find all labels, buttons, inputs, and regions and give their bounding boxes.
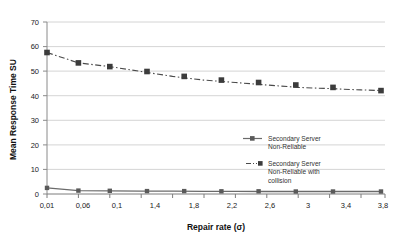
legend-label-line2: Non-Reliable with [268,168,320,175]
y-tick-label: 30 [31,116,39,125]
legend-label-line3: collision [268,177,292,184]
legend-marker-square-icon [258,161,263,166]
y-axis-tick-labels: 70 60 50 40 30 20 10 0 [31,18,39,199]
x-tick-label: 0,06 [76,201,91,210]
x-tick-label: 1,8 [189,201,199,210]
mean-response-time-line-chart: 70 60 50 40 30 20 10 0 0,01 0, [0,0,399,251]
x-tick-label: 3,8 [378,201,388,210]
x-tick-label: 1,4 [150,201,160,210]
chart-container: 70 60 50 40 30 20 10 0 0,01 0, [0,0,399,251]
x-tick-label: 3 [306,201,310,210]
plot-area-background [47,22,385,194]
y-tick-label: 20 [31,141,39,150]
legend-label-line2: Non-Reliable [268,143,306,150]
y-axis-ticks [43,22,47,194]
x-axis-ticks [47,194,385,198]
y-tick-label: 50 [31,67,39,76]
legend-label-line1: Secondary Server [268,135,322,143]
y-tick-label: 40 [31,92,39,101]
x-tick-label: 0,01 [40,201,55,210]
legend-marker-square-icon [250,136,255,141]
y-axis-title: Mean Response Time SU [8,59,18,160]
x-axis-tick-labels: 0,01 0,06 0,1 1,4 1,8 2,2 2,6 3 3,4 3,8 [40,201,389,210]
y-tick-label: 0 [35,190,39,199]
y-tick-label: 10 [31,165,39,174]
y-tick-label: 70 [31,18,39,27]
legend-label-line1: Secondary Server [268,160,322,168]
x-tick-label: 3,4 [341,201,351,210]
x-tick-label: 0,1 [112,201,122,210]
y-tick-label: 60 [31,42,39,51]
x-axis-title: Repair rate (σ) [187,222,245,232]
x-tick-label: 2,6 [265,201,275,210]
x-tick-label: 2,2 [227,201,237,210]
